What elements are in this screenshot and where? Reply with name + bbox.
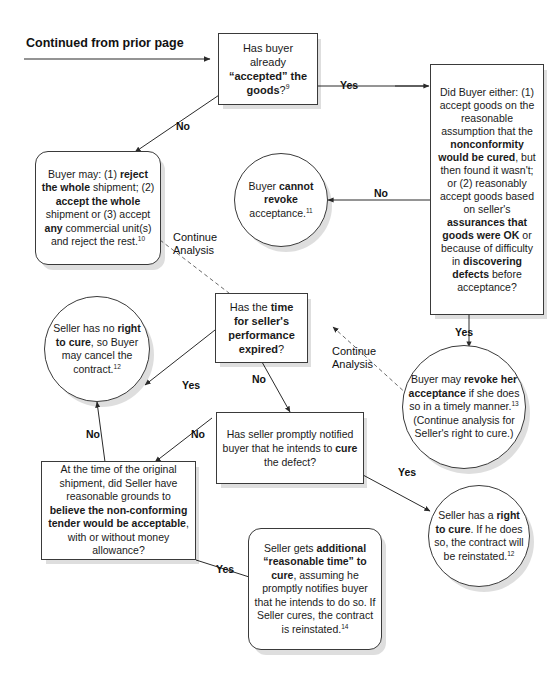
edge-label-did-buyer-no: No [374, 187, 388, 199]
edge-label-notified-no: No [191, 428, 205, 440]
node-buyer-may-reject-text: Buyer may: (1) reject the whole shipment… [36, 168, 160, 249]
edge-label-notified-yes: Yes [398, 466, 416, 478]
edge-time-yes [145, 330, 215, 385]
node-no-right-to-cure[interactable]: Seller has no right to cure, so Buyer ma… [44, 296, 150, 402]
node-buyer-cannot-revoke-text: Buyer cannot revoke acceptance.11 [235, 180, 327, 221]
edge-label-accepted-no: No [176, 120, 190, 132]
edge-notified-no [155, 418, 212, 462]
node-may-revoke-acceptance[interactable]: Buyer may revoke her acceptance if she d… [402, 345, 526, 469]
node-promptly-notified[interactable]: Has seller promptly notified buyer that … [216, 412, 364, 484]
node-right-to-cure[interactable]: Seller has a right to cure. If he does s… [428, 485, 530, 587]
node-has-buyer-accepted[interactable]: Has buyer already “accepted” the goods?9 [218, 33, 318, 105]
edge-time-no [262, 362, 290, 412]
node-reasonable-grounds[interactable]: At the time of the original shipment, di… [41, 461, 196, 560]
node-reasonable-grounds-text: At the time of the original shipment, di… [42, 463, 195, 558]
node-buyer-cannot-revoke[interactable]: Buyer cannot revoke acceptance.11 [234, 153, 328, 247]
node-buyer-may-reject[interactable]: Buyer may: (1) reject the whole shipment… [35, 151, 161, 265]
continued-from-prior-page-label: Continued from prior page [26, 36, 184, 50]
node-did-buyer-either-text: Did Buyer either: (1) accept goods on th… [431, 86, 543, 294]
edge-label-accepted-yes: Yes [340, 79, 358, 91]
node-no-right-to-cure-text: Seller has no right to cure, so Buyer ma… [45, 322, 149, 376]
node-has-buyer-accepted-text: Has buyer already “accepted” the goods?9 [219, 41, 317, 97]
node-may-revoke-acceptance-text: Buyer may revoke her acceptance if she d… [403, 373, 525, 441]
node-did-buyer-either[interactable]: Did Buyer either: (1) accept goods on th… [430, 64, 544, 315]
node-additional-time-to-cure-text: Seller gets additional “reasonable time”… [249, 542, 381, 637]
edge-label-continue-analysis-right: Continue Analysis [332, 345, 376, 371]
flowchart-canvas: Continued from prior page Has buyer alre… [0, 0, 555, 683]
edge-label-did-buyer-yes: Yes [455, 326, 473, 338]
edge-label-time-expired-no: No [252, 373, 266, 385]
node-right-to-cure-text: Seller has a right to cure. If he does s… [429, 509, 529, 563]
node-time-expired-text: Has the time for seller's performance ex… [216, 300, 307, 356]
edge-label-grounds-yes: Yes [216, 563, 234, 575]
node-promptly-notified-text: Has seller promptly notified buyer that … [217, 427, 363, 469]
node-time-expired[interactable]: Has the time for seller's performance ex… [215, 293, 308, 363]
edge-label-time-expired-yes: Yes [182, 379, 200, 391]
edge-label-grounds-no: No [86, 428, 100, 440]
edge-label-continue-analysis-left: Continue Analysis [173, 231, 217, 257]
node-additional-time-to-cure[interactable]: Seller gets additional “reasonable time”… [248, 528, 382, 650]
